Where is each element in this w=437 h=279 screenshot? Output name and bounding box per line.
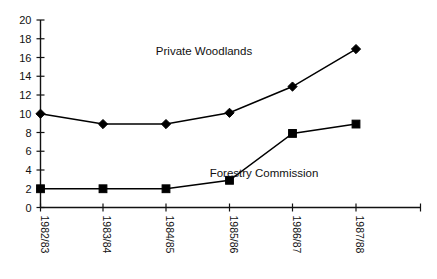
series-1 (36, 44, 361, 128)
y-tick-label: 8 (25, 127, 31, 139)
data-point-diamond (161, 119, 170, 128)
x-tick-label: 1985/86 (228, 216, 240, 254)
y-tick-label: 18 (19, 33, 31, 45)
y-tick-label: 6 (25, 145, 31, 157)
line-chart: 02468101214161820 1982/831983/841984/851… (0, 0, 437, 279)
x-tick-label: 1986/87 (291, 216, 303, 254)
y-tick-label-group: 02468101214161820 (19, 14, 31, 214)
x-axis: 1982/831983/841984/851985/861986/871987/… (39, 204, 422, 254)
y-tick-label: 2 (25, 183, 31, 195)
data-point-square (352, 120, 360, 128)
data-point-square (162, 185, 170, 193)
series-2 (37, 120, 360, 192)
data-point-square (99, 185, 107, 193)
data-point-diamond (225, 108, 234, 117)
data-point-diamond (36, 109, 45, 118)
x-tick-label: 1983/84 (101, 216, 113, 254)
annotation-layer: Private WoodlandsForestry Commission (156, 45, 318, 179)
x-tick-label-group: 1982/831983/841984/851985/861986/871987/… (39, 216, 367, 254)
y-tick-label: 20 (19, 14, 31, 26)
x-tick-label: 1982/83 (39, 216, 51, 254)
y-tick-label: 4 (25, 164, 31, 176)
series-line (41, 124, 357, 189)
y-tick-label: 0 (25, 202, 31, 214)
y-tick-label: 14 (19, 70, 31, 82)
series-annotation-1: Private Woodlands (156, 45, 253, 57)
data-point-square (37, 185, 45, 193)
data-point-diamond (98, 119, 107, 128)
y-tick-label: 12 (19, 89, 31, 101)
y-tick-label: 16 (19, 52, 31, 64)
series-annotation-2: Forestry Commission (210, 167, 319, 179)
data-point-diamond (351, 44, 360, 53)
data-point-square (289, 130, 297, 138)
x-tick-label: 1984/85 (164, 216, 176, 254)
x-tick-label: 1987/88 (354, 216, 366, 254)
chart-svg: 02468101214161820 1982/831983/841984/851… (0, 0, 437, 279)
series-line (41, 49, 357, 124)
y-tick-label: 10 (19, 108, 31, 120)
data-point-diamond (288, 82, 297, 91)
